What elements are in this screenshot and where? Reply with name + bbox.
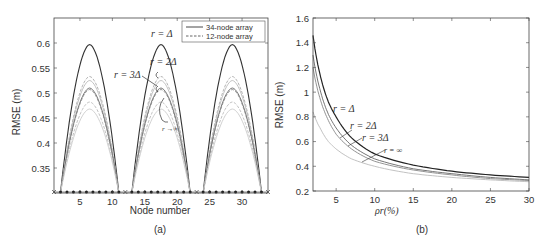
curve [61,102,119,193]
curve [132,77,190,194]
curve [203,77,261,194]
axis-ticks-a: 0.350.40.450.50.550.651015202530 [32,18,269,207]
annotation-r-delta-b: r = Δ [333,103,355,114]
y-tick-label: 0.8 [296,111,309,122]
y-tick-label: 1.2 [296,62,309,73]
y-axis-label-b: RMSE (m) [274,82,285,129]
x-tick-label: 10 [369,194,380,205]
annotation-r-3delta: r = 3Δ [114,69,141,80]
y-tick-label: 1.4 [296,37,309,48]
chart-panel-a: 0.350.40.450.50.550.651015202530 34-node… [11,18,270,235]
curve [203,45,261,194]
x-axis-label-a: Node number [130,205,191,216]
y-tick-label: 0.6 [296,136,309,147]
y-tick-label: 0.35 [32,163,51,174]
curve [61,77,119,194]
annotation-r-3delta-b: r = 3Δ [362,132,389,143]
curve [313,55,529,180]
curve [313,67,529,180]
x-tick-label: 5 [77,196,82,207]
y-tick-label: 0.2 [296,186,309,197]
curve [132,102,190,193]
annotation-leader-r3 [142,76,157,86]
x-tick-label: 30 [524,194,535,205]
panel-label-a: (a) [154,224,166,235]
y-tick-label: 1 [304,87,309,98]
annotation-r-infinity-b: r = ∞ [384,146,403,155]
annotation-braces [156,72,168,122]
panel-label-b: (b) [416,224,428,235]
y-tick-label: 0.4 [37,138,50,149]
x-tick-label: 5 [333,194,338,205]
x-tick-label: 20 [447,194,458,205]
x-tick-label: 25 [485,194,496,205]
x-axis-label-b: ρr(%) [374,205,399,217]
x-tick-label: 30 [237,196,248,207]
x-tick-label: 25 [204,196,215,207]
x-tick-label: 10 [107,196,118,207]
annotation-r-infinity: r →∞ [162,125,178,133]
y-tick-label: 1.6 [296,13,309,24]
legend-label-12-node: 12-node array [206,32,253,41]
legend-label-34-node: 34-node array [206,23,253,32]
y-tick-label: 0.4 [296,161,309,172]
legend: 34-node array 12-node array [182,21,265,42]
y-tick-label: 0.6 [37,38,50,49]
curve [203,102,261,193]
curve [61,45,119,194]
y-tick-label: 0.55 [32,63,51,74]
annotation-r-2delta-b: r = 2Δ [350,120,377,131]
y-tick-label: 0.5 [37,88,50,99]
x-tick-label: 15 [408,194,419,205]
annotation-r-delta: r = Δ [151,28,173,39]
y-axis-label-a: RMSE (m) [11,89,22,136]
y-tick-label: 0.45 [32,113,51,124]
annotation-r-2delta: r = 2Δ [150,56,177,67]
figure: 0.350.40.450.50.550.651015202530 34-node… [0,0,546,251]
chart-panel-b: 1.61.41.210.80.60.40.251015202530 r = Δ … [274,13,534,236]
